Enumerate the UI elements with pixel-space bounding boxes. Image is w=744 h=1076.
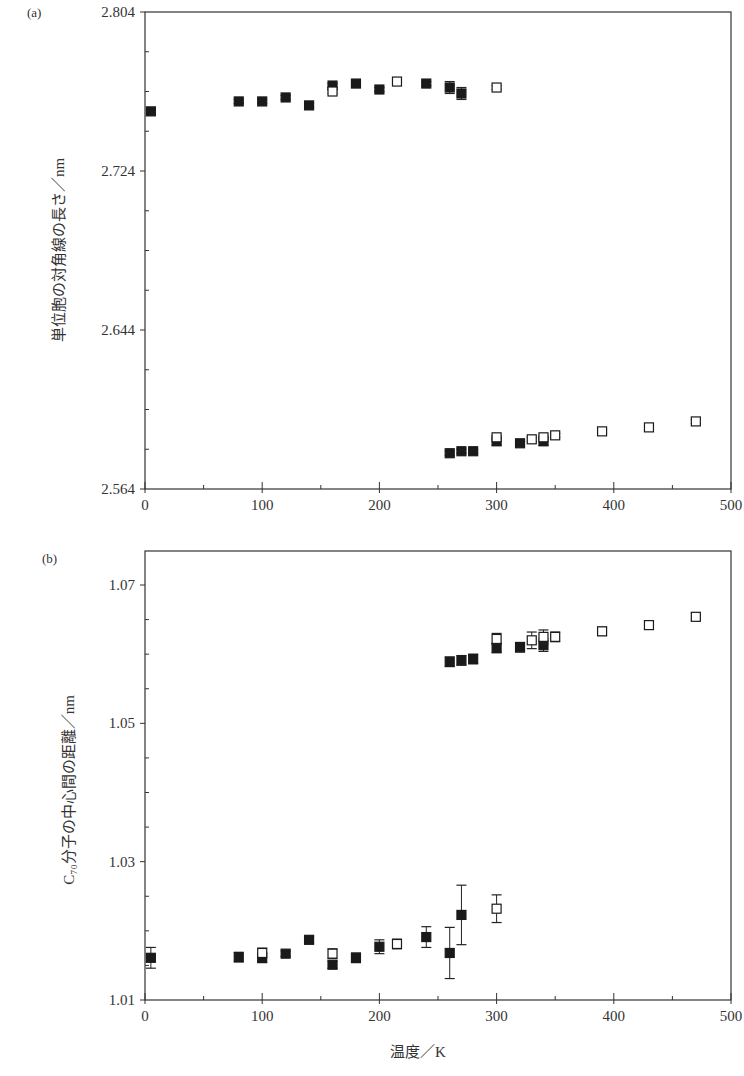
x-tick-label: 0 <box>141 497 149 513</box>
x-tick-label: 500 <box>720 497 743 513</box>
x-tick-label: 500 <box>720 1008 743 1024</box>
open-square-marker <box>492 433 502 442</box>
open-square-marker <box>691 417 701 426</box>
filled-square-marker <box>304 935 314 944</box>
open-square-marker <box>550 632 560 642</box>
filled-square-marker <box>257 97 267 106</box>
x-tick-label: 100 <box>251 497 274 513</box>
open-square-marker <box>644 423 654 432</box>
filled-square-marker <box>456 447 466 456</box>
filled-square-marker <box>515 642 525 652</box>
open-square-marker <box>527 435 537 444</box>
open-square-marker <box>392 77 402 86</box>
figure: (a) 01002003004005002.5642.6442.7242.804… <box>0 0 744 1076</box>
figure-canvas: (a) 01002003004005002.5642.6442.7242.804… <box>0 0 744 1076</box>
open-square-marker <box>597 627 607 636</box>
filled-square-marker <box>445 449 455 458</box>
open-square-marker <box>328 87 338 96</box>
chart-panel-b: (b) 01002003004005001.011.031.051.07 C₇₀… <box>42 551 742 1060</box>
x-axis-title: 温度／K <box>390 1044 446 1060</box>
y-axis-title-b: C₇₀分子の中心間の距離／nm <box>60 695 77 885</box>
filled-square-marker <box>146 107 156 116</box>
open-square-marker <box>527 632 537 649</box>
filled-square-marker <box>456 885 466 944</box>
open-square-marker <box>644 621 654 630</box>
x-tick-label: 100 <box>251 1008 274 1024</box>
open-square-marker <box>257 948 267 958</box>
x-tick-label: 400 <box>603 497 626 513</box>
open-square-marker <box>492 83 502 92</box>
x-tick-label: 300 <box>485 1008 508 1024</box>
open-square-marker <box>538 433 548 442</box>
y-tick-label: 1.01 <box>109 992 135 1008</box>
filled-square-marker <box>351 953 361 963</box>
filled-square-marker <box>374 940 384 954</box>
open-square-marker <box>492 895 502 923</box>
filled-square-marker <box>351 79 361 88</box>
filled-square-marker <box>281 93 291 102</box>
filled-square-marker <box>304 101 314 110</box>
filled-square-marker <box>445 657 455 667</box>
y-tick-label: 2.804 <box>101 4 135 20</box>
open-square-marker <box>392 939 402 949</box>
open-square-marker <box>597 427 607 436</box>
x-tick-label: 300 <box>485 497 508 513</box>
y-tick-label: 2.644 <box>101 322 135 338</box>
filled-square-marker <box>456 656 466 666</box>
y-tick-label: 1.05 <box>109 715 135 731</box>
panel-label-a: (a) <box>27 5 41 20</box>
y-tick-label: 2.564 <box>101 481 135 497</box>
y-tick-label: 1.03 <box>109 854 135 870</box>
filled-square-marker <box>328 960 338 969</box>
open-square-marker <box>492 633 502 644</box>
filled-square-marker <box>421 79 431 88</box>
y-tick-label: 1.07 <box>109 577 136 593</box>
filled-square-marker <box>281 949 291 958</box>
filled-square-marker <box>234 952 244 962</box>
open-square-marker <box>538 630 548 644</box>
open-square-marker <box>691 612 701 621</box>
plot-frame-a <box>145 12 731 489</box>
filled-square-marker <box>468 447 478 456</box>
x-tick-label: 200 <box>368 1008 391 1024</box>
panel-label-b: (b) <box>42 551 57 566</box>
filled-square-marker <box>234 97 244 106</box>
data-points-b <box>146 612 701 978</box>
filled-square-marker <box>445 82 455 94</box>
plot-frame-b <box>145 551 731 1000</box>
filled-square-marker <box>468 654 478 664</box>
y-axis-title-a: 単位胞の対角線の長さ／nm <box>51 158 67 343</box>
x-tick-label: 400 <box>603 1008 626 1024</box>
filled-square-marker <box>421 927 431 948</box>
filled-square-marker <box>515 439 525 448</box>
y-tick-label: 2.724 <box>101 163 135 179</box>
filled-square-marker <box>445 927 455 978</box>
open-square-marker <box>328 949 338 959</box>
chart-panel-a: (a) 01002003004005002.5642.6442.7242.804… <box>27 4 742 513</box>
filled-square-marker <box>456 88 466 100</box>
data-points-a <box>146 77 701 458</box>
axes-b: 01002003004005001.011.031.051.07 <box>109 577 743 1024</box>
filled-square-marker <box>374 85 384 94</box>
open-square-marker <box>550 431 560 440</box>
x-tick-label: 0 <box>141 1008 149 1024</box>
x-tick-label: 200 <box>368 497 391 513</box>
